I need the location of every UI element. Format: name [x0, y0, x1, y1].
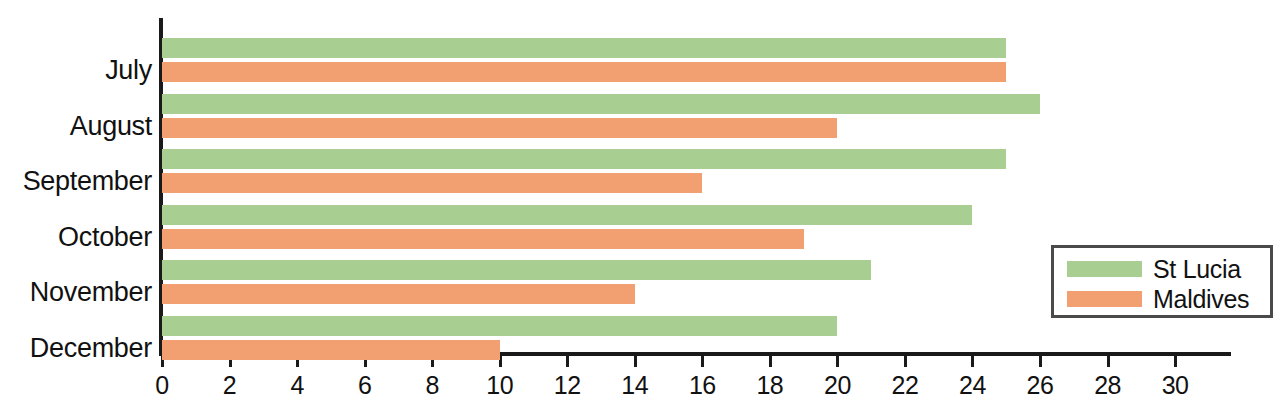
legend-entry-maldives[interactable]: Maldives: [1067, 286, 1267, 312]
bar-october-st-lucia[interactable]: [162, 205, 972, 225]
x-axis-tick-label-6: 6: [335, 370, 395, 400]
bar-july-st-lucia[interactable]: [162, 38, 1006, 58]
y-axis-label-october: October: [0, 221, 152, 253]
bar-september-maldives[interactable]: [162, 173, 702, 193]
bar-row: July: [0, 38, 1283, 82]
chart-legend: St Lucia Maldives: [1051, 245, 1273, 318]
x-axis-tick-label-12: 12: [537, 370, 597, 400]
y-axis-label-november: November: [0, 276, 152, 308]
x-axis-tick-label-8: 8: [402, 370, 462, 400]
x-axis-tick-label-14: 14: [605, 370, 665, 400]
bar-row: August: [0, 94, 1283, 138]
plot-area: 024681012141618202224262830 JulyAugustSe…: [0, 0, 1283, 420]
bar-september-st-lucia[interactable]: [162, 149, 1006, 169]
y-axis-label-september: September: [0, 165, 152, 197]
x-axis-tick-label-20: 20: [807, 370, 867, 400]
bar-november-st-lucia[interactable]: [162, 260, 871, 280]
bar-november-maldives[interactable]: [162, 284, 635, 304]
y-axis-label-july: July: [0, 54, 152, 86]
x-axis-tick-label-24: 24: [942, 370, 1002, 400]
x-axis-tick-label-4: 4: [267, 370, 327, 400]
bar-december-st-lucia[interactable]: [162, 316, 837, 336]
x-axis-tick-label-2: 2: [200, 370, 260, 400]
bar-october-maldives[interactable]: [162, 229, 804, 249]
x-axis-tick-label-30: 30: [1145, 370, 1205, 400]
bar-row: October: [0, 205, 1283, 249]
legend-swatch-maldives: [1067, 291, 1142, 307]
bar-july-maldives[interactable]: [162, 62, 1006, 82]
x-axis-tick-label-16: 16: [672, 370, 732, 400]
bar-august-st-lucia[interactable]: [162, 94, 1040, 114]
x-axis-tick-label-26: 26: [1010, 370, 1070, 400]
x-axis-tick-label-22: 22: [875, 370, 935, 400]
legend-swatch-st-lucia: [1067, 261, 1142, 277]
bar-december-maldives[interactable]: [162, 340, 500, 360]
legend-label-st-lucia: St Lucia: [1153, 254, 1241, 284]
bar-row: September: [0, 149, 1283, 193]
legend-label-maldives: Maldives: [1153, 284, 1249, 314]
x-axis-tick-label-0: 0: [132, 370, 192, 400]
legend-entry-st-lucia[interactable]: St Lucia: [1067, 256, 1267, 282]
x-axis-tick-label-18: 18: [740, 370, 800, 400]
horizontal-bar-chart: 024681012141618202224262830 JulyAugustSe…: [0, 0, 1283, 420]
bar-august-maldives[interactable]: [162, 118, 837, 138]
x-axis-tick-label-28: 28: [1078, 370, 1138, 400]
x-axis-tick-label-10: 10: [470, 370, 530, 400]
y-axis-label-august: August: [0, 110, 152, 142]
bar-row: December: [0, 316, 1283, 360]
y-axis-label-december: December: [0, 332, 152, 364]
